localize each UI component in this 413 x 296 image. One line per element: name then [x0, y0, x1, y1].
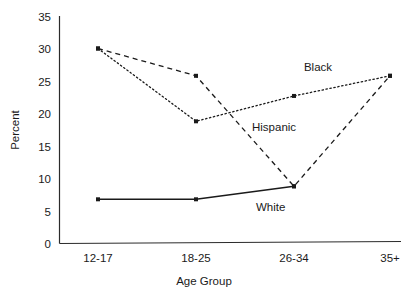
y-tick-label-25: 25 [38, 76, 51, 88]
x-tick-label-35plus: 35+ [380, 252, 400, 264]
x-tick-label-18-25: 18-25 [181, 252, 210, 264]
data-point-marker [194, 74, 198, 78]
y-tick-label-20: 20 [38, 108, 51, 120]
data-point-marker [194, 119, 198, 123]
series-label-black: Black [304, 61, 332, 73]
y-tick-label-15: 15 [38, 141, 51, 153]
data-point-marker [194, 197, 198, 201]
data-point-marker [96, 47, 100, 51]
y-tick-label-10: 10 [38, 173, 51, 185]
chart-canvas: 35 30 25 20 15 10 5 0 12-17 18-25 26-34 … [0, 0, 413, 296]
x-axis-title: Age Group [176, 275, 232, 287]
series-white [96, 184, 296, 201]
series-black [96, 47, 392, 189]
series-hispanic-line [98, 49, 390, 122]
y-tick-label-5: 5 [45, 206, 51, 218]
data-point-marker [96, 197, 100, 201]
series-hispanic-markers [96, 47, 392, 124]
series-black-line [98, 49, 390, 187]
series-black-markers [96, 47, 392, 189]
x-tick-label-12-17: 12-17 [83, 252, 112, 264]
series-hispanic [96, 47, 392, 124]
y-tick-label-35: 35 [38, 11, 51, 23]
data-point-marker [292, 184, 296, 188]
y-tick-label-0: 0 [45, 238, 51, 250]
series-label-white: White [256, 201, 285, 213]
y-tick-label-30: 30 [38, 43, 51, 55]
data-point-marker [292, 94, 296, 98]
x-tick-label-26-34: 26-34 [279, 252, 309, 264]
x-axis-line [60, 242, 402, 244]
series-label-hispanic: Hispanic [252, 121, 296, 133]
line-chart: 35 30 25 20 15 10 5 0 12-17 18-25 26-34 … [0, 0, 413, 296]
y-axis-title: Percent [9, 109, 21, 149]
data-point-marker [388, 74, 392, 78]
